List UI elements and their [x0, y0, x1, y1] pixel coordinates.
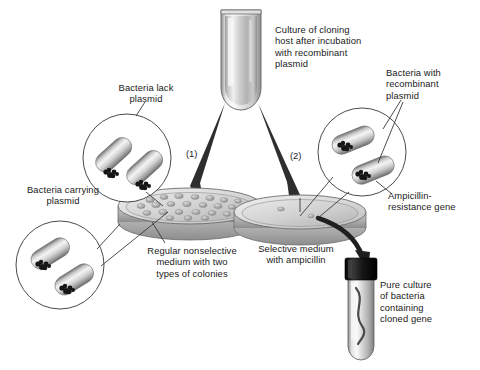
- label-bacteria-lack-plasmid: Bacteria lack plasmid: [96, 82, 196, 105]
- label-selective-medium: Selective medium with ampicillin: [240, 243, 352, 266]
- label-nonselective-medium: Regular nonselective medium with two typ…: [130, 245, 254, 279]
- cloning-selection-diagram: Bacteria lack plasmid Culture of cloning…: [0, 0, 480, 370]
- culture-tube: [221, 10, 261, 110]
- pure-culture-tube: [345, 258, 377, 360]
- label-pure-culture: Pure culture of bacteria containing clon…: [380, 279, 478, 325]
- step-label-two: (2): [290, 150, 301, 161]
- label-bacteria-with-recombinant-plasmid: Bacteria with recombinant plasmid: [386, 67, 480, 101]
- label-culture-tube: Culture of cloning host after incubation…: [275, 24, 380, 70]
- step-label-one: (1): [186, 148, 197, 159]
- label-ampicillin-resistance-gene: Ampicillin- resistance gene: [388, 190, 480, 213]
- label-bacteria-carrying-plasmid: Bacteria carrying plasmid: [8, 184, 118, 207]
